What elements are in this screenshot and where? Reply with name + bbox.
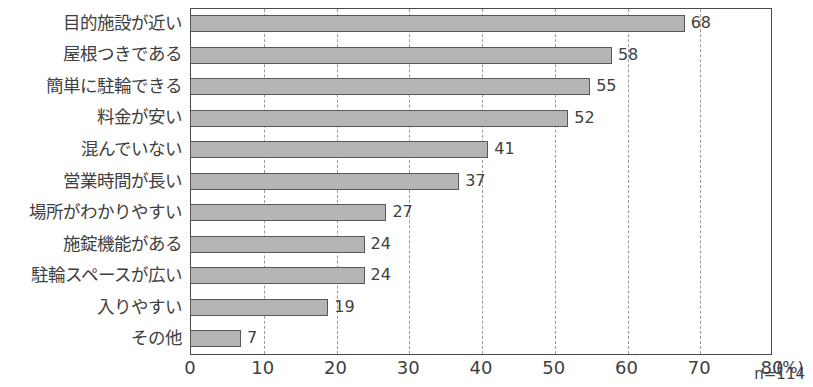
bar-value-label: 55 — [596, 75, 616, 97]
bars-container: 685855524137272424197 — [190, 8, 772, 355]
category-label: 営業時間が長い — [0, 173, 182, 191]
bar-value-label: 24 — [371, 264, 391, 286]
category-label: その他 — [0, 330, 182, 348]
bar — [190, 204, 386, 221]
category-label: 料金が安い — [0, 109, 182, 127]
bar — [190, 267, 365, 284]
x-tick-label: 50 — [542, 357, 565, 379]
bar-value-label: 68 — [691, 12, 711, 34]
sample-size-annotation: n=114 — [754, 365, 805, 383]
bar-row: 68 — [190, 8, 772, 40]
x-tick-label: 60 — [615, 357, 638, 379]
bar-row: 55 — [190, 71, 772, 103]
x-tick-label: 20 — [324, 357, 347, 379]
bar-row: 52 — [190, 103, 772, 135]
category-label: 入りやすい — [0, 299, 182, 317]
bar-row: 27 — [190, 197, 772, 229]
bar-value-label: 27 — [392, 201, 412, 223]
x-tick-label: 30 — [397, 357, 420, 379]
bar-chart: 目的施設が近い屋根つきである簡単に駐輪できる料金が安い混んでいない営業時間が長い… — [0, 0, 813, 387]
bar-row: 58 — [190, 40, 772, 72]
category-label: 施錠機能がある — [0, 236, 182, 254]
bar-value-label: 7 — [247, 327, 257, 349]
bar-row: 7 — [190, 323, 772, 355]
bar-row: 37 — [190, 166, 772, 198]
bar-row: 41 — [190, 134, 772, 166]
bar-row: 19 — [190, 292, 772, 324]
bar-value-label: 41 — [494, 138, 514, 160]
x-tick-label: 0 — [184, 357, 195, 379]
bar-row: 24 — [190, 260, 772, 292]
bar-row: 24 — [190, 229, 772, 261]
category-label: 駐輪スペースが広い — [0, 267, 182, 285]
bar — [190, 173, 459, 190]
category-label: 目的施設が近い — [0, 15, 182, 33]
bar — [190, 299, 328, 316]
category-label: 混んでいない — [0, 141, 182, 159]
x-tick-label: 40 — [470, 357, 493, 379]
bar-value-label: 24 — [371, 233, 391, 255]
category-label: 簡単に駐輪できる — [0, 78, 182, 96]
bar-value-label: 58 — [618, 44, 638, 66]
x-tick-label: 70 — [688, 357, 711, 379]
bar-value-label: 19 — [334, 296, 354, 318]
bar — [190, 236, 365, 253]
category-axis-labels: 目的施設が近い屋根つきである簡単に駐輪できる料金が安い混んでいない営業時間が長い… — [0, 8, 186, 355]
bar — [190, 47, 612, 64]
category-label: 屋根つきである — [0, 46, 182, 64]
category-label: 場所がわかりやすい — [0, 204, 182, 222]
bar — [190, 330, 241, 347]
bar — [190, 110, 568, 127]
bar — [190, 141, 488, 158]
x-axis: (%) 01020304050607080 — [190, 357, 772, 383]
bar-value-label: 37 — [465, 170, 485, 192]
x-tick-label: 10 — [251, 357, 274, 379]
bar — [190, 15, 685, 32]
bar — [190, 78, 590, 95]
bar-value-label: 52 — [574, 107, 594, 129]
